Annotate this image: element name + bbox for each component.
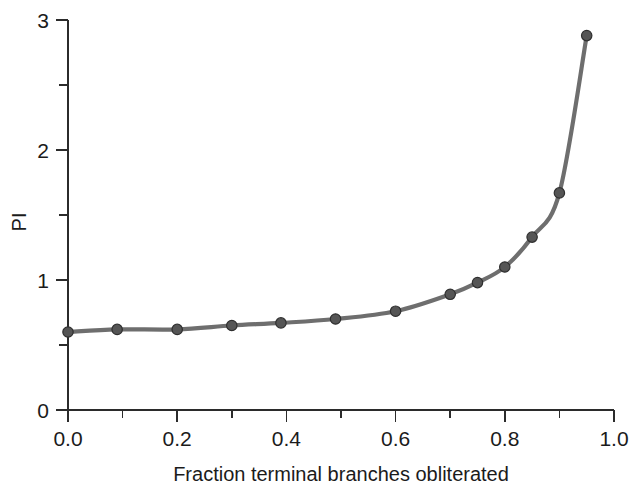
x-axis-tick-label: 0.4 [272,427,302,450]
x-axis-title: Fraction terminal branches obliterated [173,463,509,485]
line-chart: 0123 0.00.20.40.60.81.0 PI Fraction term… [0,0,631,487]
x-axis-tick-label: 0.0 [53,427,82,450]
data-point [390,306,400,316]
x-axis-tick-label: 0.2 [163,427,192,450]
x-axis-tick-label: 0.8 [490,427,519,450]
y-axis-tick-label: 2 [37,139,49,162]
data-point [445,289,455,299]
data-point [227,320,237,330]
data-point [112,324,122,334]
data-point [472,277,482,287]
data-point [330,314,340,324]
y-axis-title: PI [8,213,30,232]
data-point [554,188,564,198]
x-axis-tick-label: 1.0 [599,427,628,450]
chart-background [0,0,631,487]
chart-figure: 0123 0.00.20.40.60.81.0 PI Fraction term… [0,0,631,487]
data-point [276,318,286,328]
y-axis-tick-label: 1 [37,269,49,292]
data-point [527,232,537,242]
data-point [582,30,592,40]
y-axis-tick-label: 3 [37,9,49,32]
data-point [500,262,510,272]
data-point [63,327,73,337]
y-axis-tick-label: 0 [37,399,49,422]
data-point [172,324,182,334]
x-axis-tick-label: 0.6 [381,427,410,450]
